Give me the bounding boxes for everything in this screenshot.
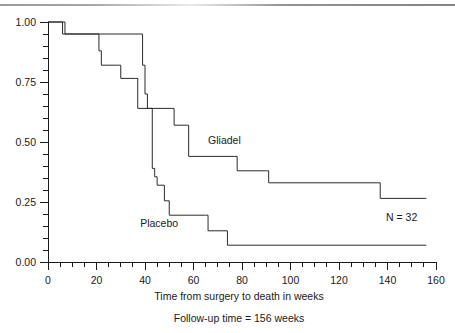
y-tick-label: 0.50 <box>16 136 37 148</box>
x-tick-label: 160 <box>427 274 445 286</box>
x-axis-title: Time from surgery to death in weeks <box>154 290 323 302</box>
y-tick-label: 0.75 <box>16 76 37 88</box>
y-tick-label: 1.00 <box>16 16 37 28</box>
x-tick-label: 60 <box>188 274 200 286</box>
x-tick-label: 140 <box>379 274 397 286</box>
kaplan-meier-plot: 0.000.250.500.751.00 0204060801001201401… <box>0 0 455 333</box>
x-tick-label: 20 <box>91 274 103 286</box>
survival-chart-figure: 0.000.250.500.751.00 0204060801001201401… <box>0 0 455 333</box>
survival-curve-gliadel <box>48 22 426 198</box>
curve-label-gliadel: Gliadel <box>208 134 241 146</box>
curve-label-placebo: Placebo <box>140 217 178 229</box>
y-axis-ticks <box>40 22 48 262</box>
x-tick-label: 120 <box>330 274 348 286</box>
x-axis-ticks <box>48 262 436 270</box>
y-tick-label: 0.25 <box>16 196 37 208</box>
follow-up-caption: Follow-up time = 156 weeks <box>174 312 304 324</box>
axes-group <box>48 22 436 262</box>
x-axis-tick-labels: 020406080100120140160 <box>45 274 445 286</box>
x-tick-label: 40 <box>139 274 151 286</box>
x-tick-label: 100 <box>282 274 300 286</box>
sample-size-annotation: N = 32 <box>386 211 417 223</box>
y-axis-tick-labels: 0.000.250.500.751.00 <box>16 16 37 268</box>
x-tick-label: 0 <box>45 274 51 286</box>
y-tick-label: 0.00 <box>16 256 37 268</box>
x-tick-label: 80 <box>236 274 248 286</box>
